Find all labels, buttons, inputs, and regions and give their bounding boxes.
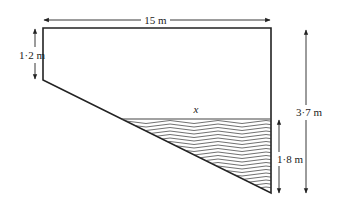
shallow-depth-label: 1·2 m	[19, 49, 45, 61]
water-width-label: x	[193, 103, 199, 115]
top-width-dimension: 15 m	[44, 14, 270, 26]
shallow-depth-dimension: 1·2 m	[19, 29, 45, 79]
water-depth-dimension: 1·8 m	[277, 120, 303, 193]
deep-depth-dimension: 3·7 m	[296, 30, 322, 193]
top-width-label: 15 m	[144, 14, 167, 26]
deep-depth-label: 3·7 m	[296, 106, 322, 118]
pool-outline	[43, 28, 271, 193]
water-depth-label: 1·8 m	[277, 153, 303, 165]
pool-diagram: 15 m 1·2 m x 1·8 m 3·7 m	[0, 0, 337, 207]
